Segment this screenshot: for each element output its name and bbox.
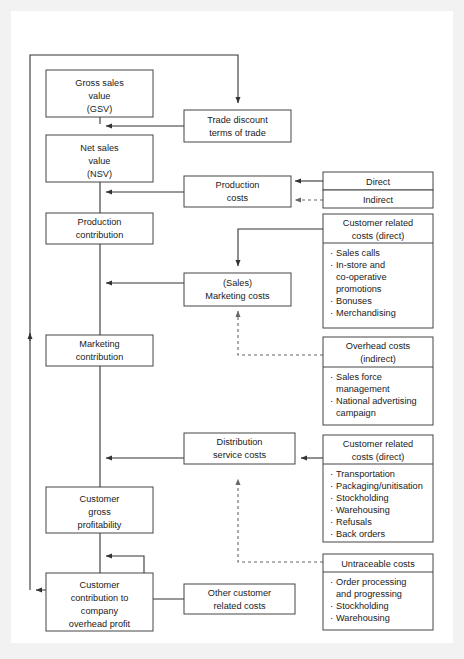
- panel2-bullet-1-line-1: Sales force: [336, 372, 382, 382]
- production-costs-line-2: costs: [227, 193, 249, 203]
- panel1-bullet-glyph-4: ·: [330, 308, 333, 318]
- connector-untraceable-to-distribution: [238, 479, 323, 562]
- panel4-bullet-glyph-3: ·: [330, 613, 333, 623]
- panel3-header-line-2: costs (direct): [352, 452, 405, 462]
- node-customer-contribution[interactable]: Customer contribution to company overhea…: [46, 573, 153, 631]
- node-gross-sales-value[interactable]: Gross sales value (GSV): [46, 70, 153, 117]
- node-trade-discount[interactable]: Trade discount terms of trade: [184, 110, 291, 142]
- panel1-bullet-2-line-3: promotions: [336, 284, 382, 294]
- panel4-bullet-1-line-1: Order processing: [336, 577, 406, 587]
- cc-line-1: Customer: [80, 580, 120, 590]
- connector-overhead-to-marketing-costs: [238, 311, 323, 355]
- cgp-line-2: gross: [88, 507, 111, 517]
- panel1-bullet-glyph-1: ·: [330, 248, 333, 258]
- marketing-contribution-line-1: Marketing: [79, 339, 119, 349]
- indirect-label: Indirect: [363, 195, 394, 205]
- panel1-bullet-glyph-2: ·: [330, 260, 333, 270]
- panel4-bullet-1-line-2: and progressing: [336, 589, 402, 599]
- production-costs-line-1: Production: [216, 180, 260, 190]
- panel2-header-line-2: (indirect): [360, 354, 396, 364]
- direct-label: Direct: [366, 177, 390, 187]
- panel3-bullet-glyph-1: ·: [330, 469, 333, 479]
- panel3-header-line-1: Customer related: [343, 439, 413, 449]
- trade-discount-line-2: terms of trade: [209, 128, 266, 138]
- node-sales-marketing-costs[interactable]: (Sales) Marketing costs: [184, 273, 291, 306]
- panel3-bullet-5: Refusals: [336, 517, 372, 527]
- panel4-header-line-1: Untraceable costs: [341, 559, 415, 569]
- panel3-bullet-glyph-2: ·: [330, 481, 333, 491]
- nsv-line-1: Net sales: [80, 143, 119, 153]
- cc-line-2: contribution to: [71, 593, 129, 603]
- panel-overhead-indirect[interactable]: Overhead costs (indirect) · Sales force …: [323, 337, 433, 425]
- panel2-header-line-1: Overhead costs: [346, 341, 411, 351]
- panel-customer-related-direct-marketing[interactable]: Customer related costs (direct) · Sales …: [323, 214, 433, 328]
- cgp-line-3: profitability: [78, 520, 122, 530]
- panel1-header-line-1: Customer related: [343, 218, 413, 228]
- node-production-costs[interactable]: Production costs: [184, 176, 291, 207]
- panel4-bullet-3-line-1: Warehousing: [336, 613, 390, 623]
- panel2-bullet-2-line-1: National advertising: [336, 396, 417, 406]
- panel2-bullet-glyph-2: ·: [330, 396, 333, 406]
- node-distribution-service-costs[interactable]: Distribution service costs: [184, 433, 295, 464]
- panel1-bullet-4-line-1: Merchandising: [336, 308, 396, 318]
- sales-marketing-costs-line-1: (Sales): [223, 278, 252, 288]
- panel1-header-line-2: costs (direct): [352, 231, 405, 241]
- panel3-bullet-glyph-4: ·: [330, 505, 333, 515]
- panel4-bullet-glyph-1: ·: [330, 577, 333, 587]
- marketing-contribution-line-2: contribution: [76, 352, 124, 362]
- flowchart-svg: Gross sales value (GSV) Net sales value …: [11, 11, 453, 643]
- panel3-bullet-3: Stockholding: [336, 493, 389, 503]
- node-customer-gross-profitability[interactable]: Customer gross profitability: [46, 487, 153, 533]
- panel3-bullet-glyph-3: ·: [330, 493, 333, 503]
- panel3-bullet-2: Packaging/unitisation: [336, 481, 423, 491]
- trade-discount-line-1: Trade discount: [207, 115, 268, 125]
- panel1-bullet-1-line-1: Sales calls: [336, 248, 380, 258]
- panel3-bullet-6: Back orders: [336, 529, 385, 539]
- node-marketing-contribution[interactable]: Marketing contribution: [46, 335, 153, 366]
- diagram-canvas: Gross sales value (GSV) Net sales value …: [11, 11, 453, 643]
- distribution-line-2: service costs: [213, 450, 267, 460]
- panel3-bullet-glyph-5: ·: [330, 517, 333, 527]
- cc-line-4: overhead profit: [69, 619, 131, 629]
- other-costs-line-1: Other customer: [208, 588, 271, 598]
- production-contribution-line-2: contribution: [76, 230, 124, 240]
- node-production-contribution[interactable]: Production contribution: [46, 213, 153, 244]
- panel2-bullet-glyph-1: ·: [330, 372, 333, 382]
- sales-marketing-costs-line-2: Marketing costs: [205, 291, 270, 301]
- gsv-line-3: (GSV): [87, 104, 113, 114]
- node-other-customer-related-costs[interactable]: Other customer related costs: [184, 584, 295, 614]
- production-contribution-line-1: Production: [78, 217, 122, 227]
- panel1-bullet-2-line-2: co-operative: [336, 272, 387, 282]
- nsv-line-2: value: [89, 156, 111, 166]
- panel1-bullet-2-line-1: In-store and: [336, 260, 385, 270]
- panel1-bullet-3-line-1: Bonuses: [336, 296, 372, 306]
- panel-customer-related-direct-distribution[interactable]: Customer related costs (direct) · Transp…: [323, 435, 433, 542]
- panel2-bullet-2-line-2: campaign: [336, 408, 376, 418]
- panel1-bullet-glyph-3: ·: [330, 296, 333, 306]
- other-costs-line-2: related costs: [213, 601, 265, 611]
- panel3-bullet-glyph-6: ·: [330, 529, 333, 539]
- gsv-line-2: value: [89, 91, 111, 101]
- node-direct[interactable]: Direct: [323, 172, 433, 190]
- diagram-page: Gross sales value (GSV) Net sales value …: [0, 0, 464, 659]
- cgp-line-1: Customer: [80, 494, 120, 504]
- node-net-sales-value[interactable]: Net sales value (NSV): [46, 135, 153, 182]
- nsv-line-3: (NSV): [87, 169, 112, 179]
- connector-crc-direct-to-marketing-costs: [238, 229, 323, 266]
- distribution-line-1: Distribution: [217, 437, 263, 447]
- node-indirect[interactable]: Indirect: [323, 190, 433, 208]
- gsv-line-1: Gross sales: [75, 78, 124, 88]
- panel4-bullet-glyph-2: ·: [330, 601, 333, 611]
- cc-line-3: company: [81, 606, 119, 616]
- panel3-bullet-1: Transportation: [336, 469, 395, 479]
- panel2-bullet-1-line-2: management: [336, 384, 390, 394]
- panel-untraceable[interactable]: Untraceable costs · Order processing and…: [323, 554, 433, 630]
- panel3-bullet-4: Warehousing: [336, 505, 390, 515]
- panel4-bullet-2-line-1: Stockholding: [336, 601, 389, 611]
